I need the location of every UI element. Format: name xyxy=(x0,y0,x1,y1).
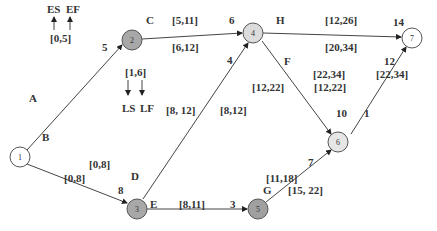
activity-d-duration: 4 xyxy=(227,54,233,66)
activity-d-early: [8, 12] xyxy=(166,104,195,116)
node-2: 2 xyxy=(122,30,142,50)
activity-f-early-2: [12,22] xyxy=(314,81,346,93)
svg-text:5: 5 xyxy=(256,205,260,214)
activity-c-duration: 6 xyxy=(229,14,235,26)
legend-ls: LS xyxy=(122,102,135,114)
legend-lf: LF xyxy=(140,102,154,114)
legend-late-example: [1,6] xyxy=(125,66,146,78)
activity-c-name: C xyxy=(146,14,154,26)
activity-c-early: [5,11] xyxy=(172,14,198,26)
activity-f-early: [12,22] xyxy=(252,81,284,93)
node-6: 6 xyxy=(328,132,348,152)
legend-es: ES xyxy=(47,3,60,15)
edge-d xyxy=(143,43,248,199)
activity-i-early: [22,34] xyxy=(376,68,408,80)
activity-g-name: G xyxy=(263,184,272,196)
activity-h-duration: 14 xyxy=(393,16,405,28)
node-4: 4 xyxy=(243,23,263,43)
svg-text:1: 1 xyxy=(18,153,22,162)
activity-g-late: [15, 22] xyxy=(288,184,323,196)
activity-e-early: [8,11] xyxy=(179,198,205,210)
svg-text:2: 2 xyxy=(130,36,134,45)
edge-i xyxy=(351,47,406,134)
svg-text:7: 7 xyxy=(410,34,414,43)
edge-c xyxy=(142,33,242,39)
node-5: 5 xyxy=(248,199,268,219)
activity-f-late: [22,34] xyxy=(313,68,345,80)
activity-b-late: [0,8] xyxy=(64,172,85,184)
activity-e-duration: 3 xyxy=(230,198,236,210)
cpm-network-diagram: 1 2 4 7 6 3 5 ES EF [0,5] [1,6] LS LF A … xyxy=(0,0,437,231)
node-3: 3 xyxy=(127,199,147,219)
node-7: 7 xyxy=(402,28,422,48)
activity-g-duration: 7 xyxy=(308,156,314,168)
activity-f-duration: 10 xyxy=(336,107,348,119)
activity-h-early: [12,26] xyxy=(325,14,357,26)
activity-a-name: A xyxy=(29,92,37,104)
activity-b-name: B xyxy=(42,131,50,143)
activity-h-name: H xyxy=(276,14,285,26)
node-1: 1 xyxy=(10,147,30,167)
svg-text:4: 4 xyxy=(251,29,255,38)
legend-early-example: [0,5] xyxy=(50,32,71,44)
activity-g-early: [11,18] xyxy=(266,172,297,184)
svg-text:6: 6 xyxy=(336,138,340,147)
activity-d-late: [8,12] xyxy=(220,104,247,116)
activity-a-duration: 5 xyxy=(102,41,108,53)
activity-h-late: [20,34] xyxy=(325,41,357,53)
edge-h xyxy=(263,33,401,37)
activity-b-early: [0,8] xyxy=(89,158,110,170)
activity-i-duration: 12 xyxy=(384,55,396,67)
activity-c-late: [6,12] xyxy=(172,41,199,53)
activity-e-name: E xyxy=(150,198,157,210)
activity-f-name: F xyxy=(284,55,291,67)
activity-i-name: 1 xyxy=(364,107,370,119)
legend-ef: EF xyxy=(66,3,80,15)
activity-d-name: D xyxy=(131,170,139,182)
activity-b-duration: 8 xyxy=(118,184,124,196)
svg-text:3: 3 xyxy=(135,205,139,214)
